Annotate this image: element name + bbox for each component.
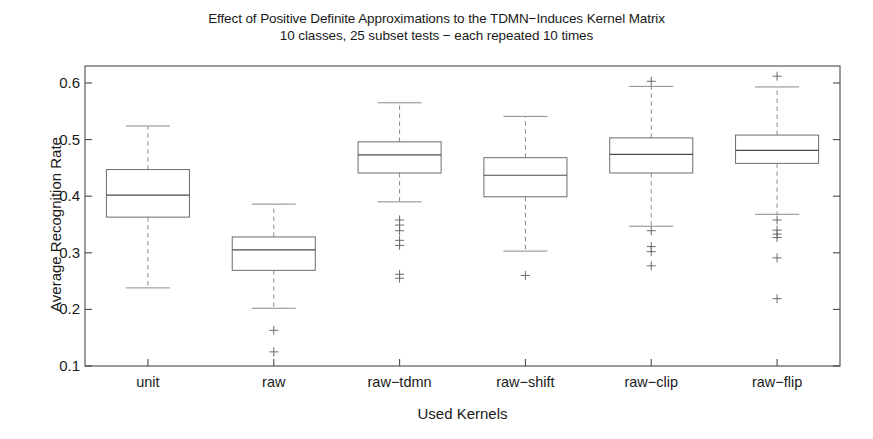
figure-canvas: Effect of Positive Definite Approximatio… (0, 0, 873, 439)
box-raw-tdmn (358, 103, 441, 283)
box-iqr (736, 135, 819, 163)
box-iqr (358, 142, 441, 173)
box-raw-shift (484, 116, 567, 280)
boxplot-svg (0, 0, 873, 439)
box-iqr (232, 237, 315, 270)
boxplot-series (106, 72, 818, 357)
box-unit (106, 126, 189, 288)
box-raw-flip (736, 72, 819, 303)
box-iqr (106, 170, 189, 218)
box-raw (232, 204, 315, 356)
plot-axes (85, 66, 840, 366)
plot-frame (85, 66, 840, 366)
box-iqr (484, 158, 567, 197)
box-raw-clip (610, 77, 693, 271)
box-iqr (610, 138, 693, 173)
